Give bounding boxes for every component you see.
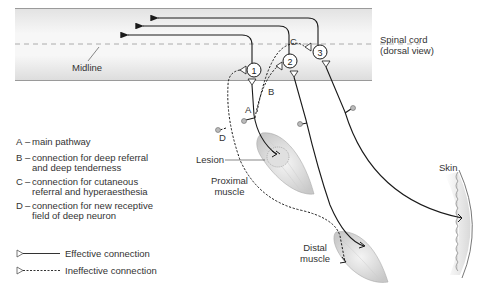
distal-muscle-label: Distal muscle [300, 242, 330, 264]
legend-text: connection for cutaneous referral and hy… [32, 177, 148, 198]
neuron-2-afferent [294, 77, 364, 246]
legend-text: main pathway [32, 137, 91, 148]
pathway-c-label: C [290, 36, 297, 47]
legend-key: C [16, 177, 25, 198]
legend-ineffective-glyph [17, 267, 60, 274]
legend-item-b: B – connection for deep referral and dee… [16, 153, 153, 174]
legend-effective-glyph [17, 250, 60, 257]
legend-text-line2: field of deep neuron [32, 211, 153, 222]
distal-line2: muscle [300, 253, 330, 264]
spinal-cord-label-line2: (dorsal view) [380, 45, 434, 56]
legend-effective-label: Effective connection [65, 248, 150, 259]
legend-text: connection for new receptive field of de… [32, 201, 153, 222]
proximal-line1: Proximal [211, 175, 248, 186]
spinal-cord-label-line1: Spinal cord [380, 34, 434, 45]
legend-item-a: A – main pathway [16, 137, 153, 148]
pathway-b-label: B [268, 86, 274, 97]
legend-key: A [16, 137, 25, 148]
legend-text-line2: and deep tenderness [32, 163, 148, 174]
proximal-line2: muscle [211, 186, 248, 197]
legend-item-c: C – connection for cutaneous referral an… [16, 177, 153, 198]
neuron-2-number: 2 [287, 57, 292, 67]
midline-label: Midline [72, 62, 102, 73]
lesion-label: Lesion [196, 154, 224, 165]
legend-text: connection for deep referral and deep te… [32, 153, 148, 174]
legend-ineffective-label: Ineffective connection [65, 265, 157, 276]
proximal-muscle [257, 133, 314, 194]
neuron-3-afferent [326, 67, 462, 218]
legend-key: B [16, 153, 25, 174]
proximal-muscle-label: Proximal muscle [211, 175, 248, 197]
skin [445, 170, 472, 278]
legend: A – main pathway B – connection for deep… [16, 137, 153, 225]
legend-dash: – [25, 153, 32, 174]
neuron-3-number: 3 [317, 48, 322, 58]
legend-dash: – [25, 177, 32, 198]
legend-dash: – [25, 137, 32, 148]
legend-item-d: D – connection for new receptive field o… [16, 201, 153, 222]
legend-text-line1: main pathway [32, 137, 91, 148]
legend-key: D [16, 201, 25, 222]
skin-label: Skin [439, 162, 457, 173]
spinal-cord-label: Spinal cord (dorsal view) [380, 34, 434, 56]
neuron-1-number: 1 [251, 66, 256, 76]
lesion-area [267, 147, 289, 167]
pathway-a-label: A [245, 104, 251, 115]
pathway-d-label: D [219, 132, 226, 143]
legend-dash: – [25, 201, 32, 222]
distal-line1: Distal [300, 242, 330, 253]
legend-text-line2: referral and hyperaesthesia [32, 187, 148, 198]
